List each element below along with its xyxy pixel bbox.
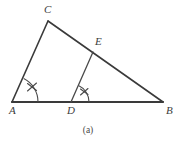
vertex-label-C: C [44,3,52,15]
vertex-label-B: B [166,104,173,116]
figure-panel: A B C D E (a) [0,0,176,142]
vertex-label-E: E [94,35,102,47]
segment-CB [48,21,163,102]
segment-AC [12,21,48,102]
vertex-label-D: D [66,104,75,116]
vertex-label-A: A [8,104,16,116]
figure-caption: (a) [83,125,94,136]
triangle-diagram: A B C D E (a) [0,0,176,142]
segment-DE [71,52,93,102]
